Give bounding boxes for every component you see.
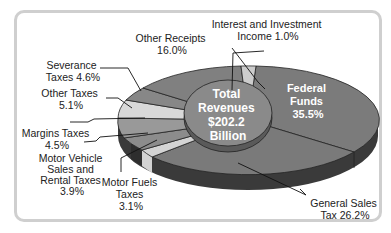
pie-chart: Total Revenues $202.2 Billion Federal Fu… bbox=[0, 0, 391, 233]
label-interest-income: Interest and Investment Income 1.0% bbox=[212, 18, 325, 42]
label-other-taxes: Other Taxes 5.1% bbox=[41, 87, 100, 111]
label-other-receipts: Other Receipts 16.0% bbox=[136, 32, 209, 56]
label-motor-vehicle: Motor Vehicle Sales and Rental Taxes 3.9… bbox=[39, 152, 106, 197]
label-margins-taxes: Margins Taxes 4.5% bbox=[22, 127, 92, 151]
label-motor-fuels: Motor Fuels Taxes 3.1% bbox=[102, 176, 160, 212]
label-general-sales-tax: General Sales Tax 26.2% bbox=[310, 197, 379, 221]
label-severance-taxes: Severance Taxes 4.6% bbox=[46, 59, 100, 83]
label-federal-funds: Federal Funds 35.5% bbox=[287, 82, 329, 120]
